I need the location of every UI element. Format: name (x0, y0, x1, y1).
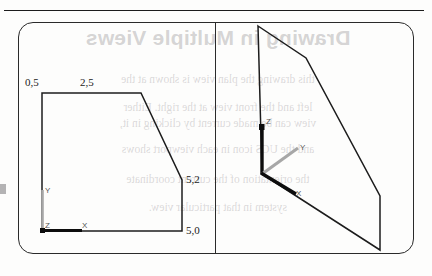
left-label-top-left: 0,5 (25, 76, 39, 88)
left-axis-label-x: X (82, 221, 87, 230)
left-profile-outline (42, 93, 182, 231)
right-axis-label-x: X (296, 189, 301, 198)
left-axis-label-y: Y (45, 186, 50, 195)
right-ucs-y-axis (262, 148, 298, 174)
left-label-right-upper: 5,2 (186, 173, 200, 185)
left-label-top-right: 2,5 (80, 76, 94, 88)
figure-screenshot: Drawing in Multiple Views this drawing t… (0, 0, 432, 276)
right-axis-label-z: Z (266, 117, 271, 126)
right-axis-label-y: Y (300, 143, 305, 152)
right-ucs-x-axis (261, 173, 296, 194)
drawing-canvas (0, 0, 432, 276)
left-axis-label-z: Z (45, 221, 50, 230)
right-profile-outline (258, 26, 380, 250)
left-label-right-lower: 5,0 (186, 224, 200, 236)
right-ucs-z-origin (259, 124, 265, 130)
